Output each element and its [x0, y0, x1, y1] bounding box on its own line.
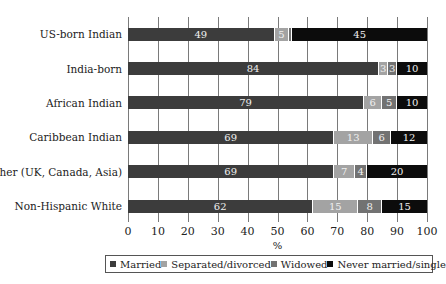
- bar-segment-separated-divorced: 6: [364, 96, 382, 109]
- legend-label: Separated/divorced: [171, 259, 271, 270]
- bar-segment-separated-divorced: 7: [334, 165, 355, 178]
- x-tick-label: 10: [151, 225, 165, 238]
- x-tick-label: 0: [125, 225, 132, 238]
- data-label: 5: [386, 97, 392, 108]
- data-label: 7: [341, 166, 347, 177]
- data-label: 79: [239, 97, 252, 108]
- bar-segment-separated-divorced: 15: [313, 200, 358, 213]
- data-label: 3: [389, 63, 395, 74]
- gridline: [188, 17, 189, 222]
- data-label: 15: [398, 201, 411, 212]
- data-label: 62: [214, 201, 227, 212]
- x-tick-label: 50: [271, 225, 285, 238]
- legend-item: Widowed: [271, 259, 328, 270]
- legend-swatch-icon: [327, 261, 333, 267]
- bar-segment-widowed: 8: [358, 200, 382, 213]
- bar-segment-married: 69: [128, 165, 334, 178]
- legend-item: Never married/single: [327, 259, 445, 270]
- data-label: 69: [224, 132, 237, 143]
- data-label: 10: [406, 63, 419, 74]
- bar-segment-never-married-single: 15: [382, 200, 427, 213]
- legend-label: Married: [120, 259, 161, 270]
- x-axis-label: %: [273, 240, 283, 251]
- legend: MarriedSeparated/divorcedWidowedNever ma…: [105, 255, 433, 273]
- legend-item: Married: [110, 259, 161, 270]
- bar-row: 843310: [128, 62, 427, 75]
- data-label: 6: [369, 97, 375, 108]
- x-tick-label: 70: [330, 225, 344, 238]
- data-label: 45: [353, 29, 366, 40]
- data-label: 6: [378, 132, 384, 143]
- category-label: Non-Hispanic White: [15, 200, 122, 212]
- bar-segment-separated-divorced: 3: [379, 62, 388, 75]
- bar-segment-separated-divorced: 13: [334, 131, 373, 144]
- gridline: [278, 17, 279, 222]
- bar-segment-married: 62: [128, 200, 313, 213]
- gridline: [367, 17, 368, 222]
- bar-segment-widowed: 4: [355, 165, 367, 178]
- bar-segment-widowed: 5: [382, 96, 397, 109]
- bar-segment-married: 79: [128, 96, 364, 109]
- data-label: 69: [224, 166, 237, 177]
- gridline: [427, 17, 428, 222]
- gridline: [158, 17, 159, 222]
- data-label: 20: [391, 166, 404, 177]
- x-tick-label: 90: [390, 225, 404, 238]
- legend-swatch-icon: [110, 261, 116, 267]
- category-label: Caribbean Indian: [29, 131, 122, 143]
- data-label: 8: [366, 201, 372, 212]
- bar-row: 49545: [128, 28, 427, 41]
- x-tick-label: 100: [417, 225, 438, 238]
- category-label: India-born: [66, 63, 122, 75]
- gridline: [248, 17, 249, 222]
- bar-row: 697420: [128, 165, 427, 178]
- bar-segment-widowed: 6: [373, 131, 391, 144]
- legend-swatch-icon: [161, 261, 167, 267]
- data-label: 5: [278, 29, 284, 40]
- bar-segment-married: 69: [128, 131, 334, 144]
- bar-segment-never-married-single: 10: [397, 96, 427, 109]
- category-label: US-born Indian: [40, 28, 122, 40]
- gridline: [337, 17, 338, 222]
- bar-segment-married: 84: [128, 62, 379, 75]
- legend-label: Never married/single: [337, 259, 445, 270]
- bar-row: 6913612: [128, 131, 427, 144]
- data-label: 13: [347, 132, 360, 143]
- bar-row: 6215815: [128, 200, 427, 213]
- data-label: 3: [380, 63, 386, 74]
- bar-segment-married: 49: [128, 28, 275, 41]
- data-label: 49: [194, 29, 207, 40]
- gridline: [218, 17, 219, 222]
- data-label: 15: [329, 201, 342, 212]
- bar-segment-never-married-single: 45: [292, 28, 427, 41]
- data-label: 84: [247, 63, 260, 74]
- bar-segment-never-married-single: 12: [391, 131, 427, 144]
- bar-segment-never-married-single: 20: [367, 165, 427, 178]
- bar-segment-never-married-single: 10: [397, 62, 427, 75]
- data-label: 12: [403, 132, 416, 143]
- x-tick-label: 80: [360, 225, 374, 238]
- bar-row: 796510: [128, 96, 427, 109]
- bar-segment-widowed: 3: [388, 62, 397, 75]
- x-tick-label: 40: [241, 225, 255, 238]
- x-tick-label: 60: [300, 225, 314, 238]
- gridline: [128, 17, 129, 222]
- data-label: 10: [406, 97, 419, 108]
- x-tick-label: 30: [211, 225, 225, 238]
- bar-segment-separated-divorced: 5: [275, 28, 290, 41]
- x-tick-label: 20: [181, 225, 195, 238]
- gridline: [307, 17, 308, 222]
- data-label: 4: [358, 166, 364, 177]
- legend-item: Separated/divorced: [161, 259, 271, 270]
- category-label: African Indian: [46, 97, 122, 109]
- category-label: Other (UK, Canada, Asia): [0, 166, 122, 178]
- gridline: [397, 17, 398, 222]
- legend-label: Widowed: [281, 259, 328, 270]
- legend-swatch-icon: [271, 261, 277, 267]
